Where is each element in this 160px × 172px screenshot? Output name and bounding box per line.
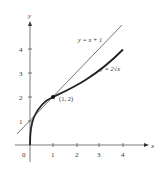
- graph-canvas: x 0 1 2 3 4 y 1 2 3 4 y = x + 1 y = 2√x …: [0, 0, 160, 172]
- sqrt-curve-label: y = 2√x: [99, 65, 120, 72]
- y-tick-label-2: 2: [19, 94, 23, 102]
- x-axis-arrow-icon: [144, 143, 149, 147]
- tangent-line-label: y = x + 1: [77, 36, 102, 43]
- x-tick-label-4: 4: [121, 151, 125, 159]
- sqrt-curve-stroke: [30, 50, 123, 146]
- sqrt-curve: [30, 50, 123, 146]
- tangent-line: [17, 25, 122, 134]
- y-tick-label-3: 3: [19, 70, 23, 78]
- y-tick-label-1: 1: [19, 118, 23, 126]
- x-tick-label-3: 3: [97, 151, 101, 159]
- tangent-point-label: (1, 2): [59, 95, 73, 103]
- x-axis-label: x: [150, 142, 155, 150]
- x-axis: [15, 143, 149, 147]
- x-tick-label-1: 1: [51, 151, 55, 159]
- y-tick-label-4: 4: [19, 46, 23, 54]
- y-axis-label: y: [27, 12, 32, 20]
- x-tick-label-2: 2: [75, 151, 79, 159]
- tangent-point: [51, 95, 55, 99]
- y-axis-arrow-icon: [28, 21, 32, 26]
- origin-label: 0: [22, 151, 26, 159]
